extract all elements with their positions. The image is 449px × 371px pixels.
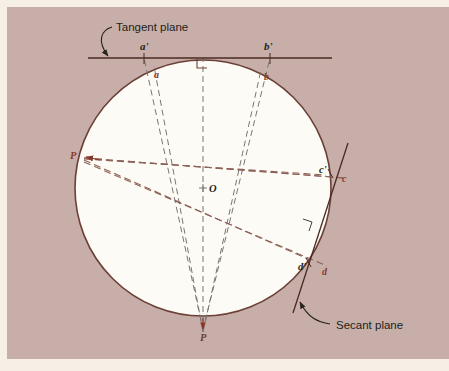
label-a-prime: a' <box>140 40 149 52</box>
secant-plane-label: Secant plane <box>336 319 403 331</box>
label-b: b <box>264 71 269 82</box>
label-center-o: O <box>209 183 217 194</box>
label-p-left: P <box>70 150 77 161</box>
label-c: c <box>342 173 347 184</box>
label-b-prime: b' <box>264 40 273 52</box>
figure-root: Tangent plane Secant plane a' b' a b c' … <box>0 0 449 371</box>
geometry-diagram: Tangent plane Secant plane a' b' a b c' … <box>0 0 449 371</box>
label-c-prime: c' <box>319 164 327 175</box>
label-d-prime: d' <box>298 261 306 272</box>
tangent-plane-label: Tangent plane <box>116 21 188 33</box>
label-a: a <box>154 69 159 80</box>
label-p-bottom: P <box>200 332 207 343</box>
